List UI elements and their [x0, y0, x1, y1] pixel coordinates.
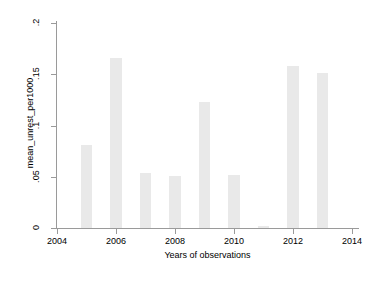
- bar: [317, 73, 329, 228]
- y-tick: [51, 126, 56, 127]
- bar: [110, 58, 122, 228]
- x-tick: [293, 229, 294, 234]
- x-tick: [175, 229, 176, 234]
- x-axis-line: [56, 228, 359, 229]
- y-tick: [51, 23, 56, 24]
- x-tick-label: 2006: [96, 236, 136, 246]
- bar: [140, 173, 152, 228]
- x-tick: [234, 229, 235, 234]
- y-tick-label: .2: [32, 10, 41, 36]
- y-tick: [51, 74, 56, 75]
- x-tick: [57, 229, 58, 234]
- x-tick-label: 2008: [155, 236, 195, 246]
- x-tick-label: 2012: [273, 236, 313, 246]
- bar: [287, 66, 299, 228]
- x-axis-title: Years of observations: [56, 250, 359, 260]
- y-axis-line: [56, 21, 57, 229]
- bar: [169, 176, 181, 228]
- bar: [81, 145, 93, 228]
- y-axis-title: mean_unrest_per1000: [25, 48, 35, 198]
- x-tick-label: 2014: [332, 236, 372, 246]
- bar-chart: 0.05.1.15.2 200420062008201020122014 mea…: [0, 0, 383, 282]
- bar: [199, 102, 211, 228]
- x-tick-label: 2004: [37, 236, 77, 246]
- x-tick-label: 2010: [214, 236, 254, 246]
- plot-area: 0.05.1.15.2 200420062008201020122014 mea…: [0, 0, 383, 282]
- bar: [228, 175, 240, 228]
- y-tick: [51, 177, 56, 178]
- x-tick: [352, 229, 353, 234]
- y-tick: [51, 228, 56, 229]
- bar: [258, 226, 270, 228]
- x-tick: [116, 229, 117, 234]
